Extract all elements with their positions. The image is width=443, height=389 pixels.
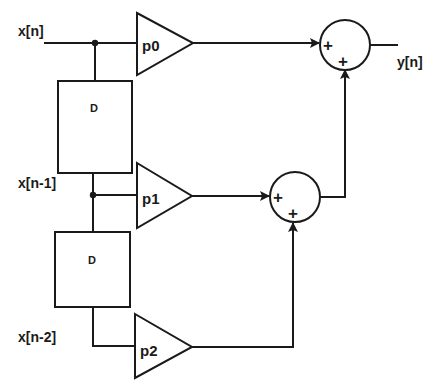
summer-bottom-sign-bottom: + [288, 204, 298, 223]
output-signal-label: y[n] [397, 54, 423, 70]
fir-filter-diagram: x[n] p0 D x[n-1] p1 D x[n-2] p2 + + [0, 0, 443, 389]
delay-block-1-label: D [90, 102, 98, 114]
summer-bottom-to-summer-top-wire [320, 70, 345, 197]
delay1-signal-label: x[n-1] [18, 175, 56, 191]
delay-block-2-label: D [88, 254, 96, 266]
delay-block-1: D [58, 81, 132, 173]
summer-top: + + [320, 20, 370, 71]
summer-bottom: + + [270, 172, 320, 223]
p2-to-summer-bottom-wire [192, 223, 293, 347]
delay2-to-p2-wire [93, 307, 135, 346]
gain-p1-label: p1 [142, 190, 160, 207]
delay2-signal-label: x[n-2] [18, 329, 56, 345]
gain-p2-label: p2 [140, 342, 158, 359]
summer-bottom-sign-left: + [273, 188, 283, 207]
summer-top-sign-bottom: + [338, 52, 348, 71]
gain-p2: p2 [135, 314, 192, 378]
input-signal-label: x[n] [18, 23, 44, 39]
summer-top-sign-left: + [323, 36, 333, 55]
gain-p0-label: p0 [142, 37, 160, 54]
gain-p0: p0 [137, 13, 193, 75]
delay-block-2: D [55, 232, 130, 307]
gain-p1: p1 [137, 163, 192, 228]
